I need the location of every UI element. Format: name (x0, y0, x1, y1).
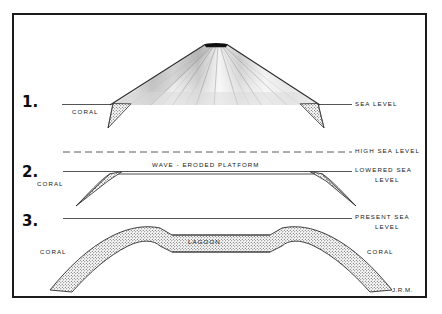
panel-3-art (50, 219, 392, 293)
panel-3-left-coral-label: CORAL (40, 249, 67, 256)
diagram-artwork (0, 0, 442, 314)
barrier-reef-body (50, 227, 392, 292)
wave-eroded-platform-label: WAVE - ERODED PLATFORM (152, 162, 260, 169)
lagoon-label: LAGOON (188, 239, 221, 246)
lowered-sea-level-label: LEVEL (375, 177, 400, 184)
artist-signature: J.R.M. (392, 286, 413, 293)
atoll-formation-figure: 1. CORAL SEA LEVEL 2. HIGH SEA LEVEL WAV… (0, 0, 442, 314)
panel-3-number: 3. (22, 212, 38, 230)
panel-1-number: 1. (22, 93, 38, 111)
panel-1-art (62, 43, 352, 128)
panel-1-coral-label: CORAL (72, 109, 99, 116)
high-sea-level-label: HIGH SEA LEVEL (355, 148, 420, 155)
panel-2-number: 2. (22, 163, 38, 181)
panel-1-sea-level-label: SEA LEVEL (355, 101, 397, 108)
panel-2-coral-label: CORAL (37, 181, 64, 188)
present-sea-level-label: LEVEL (375, 224, 400, 231)
panel-3-right-coral-label: CORAL (367, 249, 394, 256)
present-sea-label: PRESENT SEA (355, 214, 410, 221)
lowered-sea-label: LOWERED SEA (355, 167, 412, 174)
